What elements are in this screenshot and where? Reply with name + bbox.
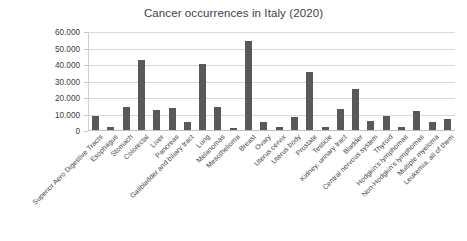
y-tick-mark bbox=[84, 115, 88, 116]
bar-chart: Cancer occurrences in Italy (2020) 60.00… bbox=[0, 0, 467, 241]
bars-layer bbox=[88, 32, 455, 131]
y-axis-tick-labels: 60.00050.00040.00030.00020.00010.0000 bbox=[30, 32, 84, 131]
x-tick-label-wrapper: Superior Aero Digestive Tracts bbox=[31, 133, 104, 206]
y-tick-label: 0 bbox=[75, 127, 80, 136]
bar[interactable] bbox=[92, 116, 99, 131]
y-tick-label: 40.000 bbox=[55, 61, 80, 70]
x-axis-line bbox=[88, 130, 455, 131]
y-tick-label: 30.000 bbox=[55, 77, 80, 86]
bar[interactable] bbox=[153, 110, 160, 131]
bar[interactable] bbox=[123, 107, 130, 131]
x-axis-tick-labels: Superior Aero Digestive TractsEsophagusS… bbox=[88, 133, 455, 239]
x-tick-label: Breast bbox=[237, 133, 256, 152]
y-tick-mark bbox=[84, 82, 88, 83]
y-tick-mark bbox=[84, 32, 88, 33]
bar[interactable] bbox=[199, 64, 206, 131]
bar[interactable] bbox=[306, 72, 313, 131]
bar[interactable] bbox=[245, 41, 252, 131]
bar[interactable] bbox=[352, 89, 359, 131]
bar[interactable] bbox=[214, 107, 221, 131]
y-tick-mark bbox=[84, 98, 88, 99]
bar[interactable] bbox=[138, 60, 145, 131]
bar[interactable] bbox=[413, 111, 420, 131]
y-tick-label: 20.000 bbox=[55, 94, 80, 103]
bar[interactable] bbox=[291, 117, 298, 131]
y-tick-label: 10.000 bbox=[55, 110, 80, 119]
y-tick-mark bbox=[84, 65, 88, 66]
y-tick-label: 50.000 bbox=[55, 44, 80, 53]
chart-title: Cancer occurrences in Italy (2020) bbox=[0, 7, 467, 19]
plot-area bbox=[88, 32, 455, 131]
bar[interactable] bbox=[337, 109, 344, 131]
x-tick-label-wrapper: Breast bbox=[237, 133, 256, 152]
y-tick-mark bbox=[84, 49, 88, 50]
y-tick-label: 60.000 bbox=[55, 28, 80, 37]
x-tick-label: Superior Aero Digestive Tracts bbox=[31, 133, 104, 206]
y-tick-mark bbox=[84, 131, 88, 132]
bar[interactable] bbox=[169, 108, 176, 131]
bar[interactable] bbox=[383, 116, 390, 131]
